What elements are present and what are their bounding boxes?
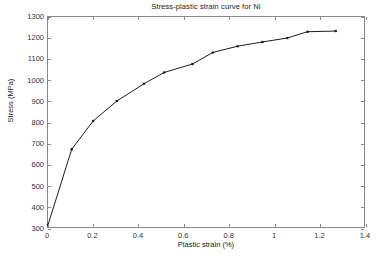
y-tick-mark <box>361 59 364 60</box>
figure-container: Stress-plastic strain curve for Ni Stres… <box>0 0 379 256</box>
y-tick-mark <box>361 123 364 124</box>
x-tick-mark <box>93 17 94 20</box>
x-tick-label: 0.6 <box>163 231 203 240</box>
y-tick-label: 1000 <box>4 75 44 84</box>
x-tick-mark <box>229 17 230 20</box>
series-line-ni <box>48 31 336 225</box>
y-tick-mark <box>361 80 364 81</box>
data-point-marker <box>163 71 166 74</box>
y-tick-label: 700 <box>4 139 44 148</box>
y-tick-mark <box>361 229 364 230</box>
data-point-marker <box>334 30 337 33</box>
y-tick-mark <box>48 207 51 208</box>
data-series-curve <box>48 17 364 227</box>
data-point-marker <box>286 37 289 40</box>
x-tick-mark <box>320 17 321 20</box>
plot-area <box>47 16 365 228</box>
x-tick-label: 1.4 <box>345 231 379 240</box>
y-tick-mark <box>48 101 51 102</box>
y-tick-label: 800 <box>4 118 44 127</box>
chart-title: Stress-plastic strain curve for Ni <box>47 2 365 11</box>
y-tick-mark <box>48 123 51 124</box>
x-tick-mark <box>93 224 94 227</box>
x-tick-label: 1 <box>254 231 294 240</box>
x-tick-label: 0.4 <box>118 231 158 240</box>
y-tick-mark <box>361 165 364 166</box>
x-tick-label: 0.8 <box>209 231 249 240</box>
y-tick-mark <box>48 80 51 81</box>
data-point-marker <box>116 100 119 103</box>
y-tick-mark <box>48 229 51 230</box>
y-tick-mark <box>48 38 51 39</box>
x-tick-mark <box>48 224 49 227</box>
y-tick-mark <box>48 59 51 60</box>
x-tick-mark <box>184 17 185 20</box>
x-tick-label: 0 <box>27 231 67 240</box>
x-tick-mark <box>229 224 230 227</box>
y-tick-mark <box>361 17 364 18</box>
x-tick-mark <box>48 17 49 20</box>
data-point-marker <box>92 120 95 123</box>
x-tick-label: 1.2 <box>300 231 340 240</box>
y-tick-label: 1100 <box>4 54 44 63</box>
x-tick-mark <box>366 17 367 20</box>
x-axis-label: Plastic strain (%) <box>47 240 365 249</box>
x-tick-mark <box>275 224 276 227</box>
data-point-marker <box>191 63 194 66</box>
data-point-marker <box>143 82 146 85</box>
y-tick-mark <box>361 186 364 187</box>
x-tick-mark <box>138 224 139 227</box>
y-tick-mark <box>361 38 364 39</box>
y-tick-label: 1200 <box>4 33 44 42</box>
x-tick-mark <box>138 17 139 20</box>
y-tick-mark <box>361 144 364 145</box>
data-point-marker <box>236 45 239 48</box>
x-tick-mark <box>320 224 321 227</box>
y-tick-label: 1300 <box>4 12 44 21</box>
data-point-marker <box>70 148 73 151</box>
y-tick-label: 900 <box>4 96 44 105</box>
y-tick-label: 600 <box>4 160 44 169</box>
data-point-marker <box>306 30 309 33</box>
y-tick-mark <box>48 144 51 145</box>
y-axis-tick-labels: 3004005006007008009001000110012001300 <box>0 16 44 228</box>
y-tick-mark <box>48 165 51 166</box>
x-tick-label: 0.2 <box>72 231 112 240</box>
y-tick-mark <box>361 101 364 102</box>
x-tick-mark <box>184 224 185 227</box>
y-tick-mark <box>361 207 364 208</box>
data-point-marker <box>261 41 264 44</box>
x-tick-mark <box>366 224 367 227</box>
y-tick-label: 400 <box>4 202 44 211</box>
y-tick-mark <box>48 186 51 187</box>
x-tick-mark <box>275 17 276 20</box>
data-point-marker <box>211 51 214 54</box>
y-tick-label: 500 <box>4 181 44 190</box>
